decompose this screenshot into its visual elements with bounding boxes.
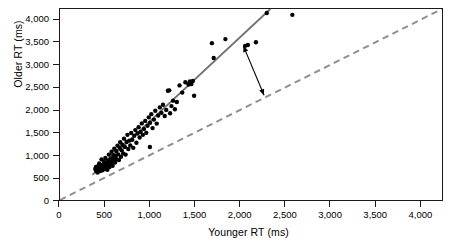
plot-area: [59, 8, 443, 201]
data-point: [167, 88, 171, 92]
data-point: [223, 37, 227, 41]
data-point: [123, 152, 127, 156]
x-axis-tick-label: 1,500: [183, 210, 207, 220]
data-point: [155, 121, 159, 125]
annotations: [243, 46, 264, 95]
y-axis-tick: [53, 19, 59, 20]
data-point: [210, 41, 214, 45]
y-axis-tick-label: 1,500: [0, 128, 49, 138]
data-point: [130, 138, 134, 142]
data-point: [173, 107, 177, 111]
y-axis-tick-label: 3,000: [0, 60, 49, 70]
x-axis-tick: [149, 201, 150, 207]
y-axis-title: Older RT (ms): [12, 0, 24, 124]
x-axis-tick-label: 3,500: [363, 210, 387, 220]
y-axis-tick: [53, 64, 59, 65]
y-axis-tick-label: 500: [0, 173, 49, 183]
x-axis-tick: [420, 201, 421, 207]
x-axis-tick: [329, 201, 330, 207]
data-point: [150, 126, 154, 130]
data-point: [177, 83, 181, 87]
trend-lines: [60, 9, 442, 200]
y-axis-tick: [53, 155, 59, 156]
data-point: [159, 111, 163, 115]
scatter-plot-figure: 05001,0001,5002,0002,5003,0003,5004,000 …: [0, 0, 453, 245]
data-points: [93, 11, 294, 175]
x-axis-title: Younger RT (ms): [0, 226, 453, 238]
x-axis-tick: [239, 201, 240, 207]
data-point: [144, 131, 148, 135]
data-point: [136, 125, 140, 129]
data-point: [191, 79, 195, 83]
x-axis-tick: [194, 201, 195, 207]
data-point: [192, 94, 196, 98]
data-point: [171, 99, 175, 103]
data-point: [175, 100, 179, 104]
x-axis-tick-label: 2,500: [273, 210, 297, 220]
data-point: [246, 43, 250, 47]
data-point: [125, 133, 129, 137]
identity-line: [60, 9, 442, 200]
y-axis-tick: [53, 132, 59, 133]
data-point: [148, 121, 152, 125]
data-point: [131, 146, 135, 150]
y-axis-tick-label: 1,000: [0, 151, 49, 161]
data-point: [152, 117, 156, 121]
data-point: [142, 127, 146, 131]
data-point: [164, 108, 168, 112]
data-point: [134, 141, 138, 145]
data-point: [143, 119, 147, 123]
data-point: [290, 13, 294, 17]
y-axis-tick: [53, 178, 59, 179]
plot-data-layer: [60, 9, 442, 200]
x-axis-title-text: Younger RT (ms): [164, 226, 289, 238]
x-axis-tick: [284, 201, 285, 207]
data-point: [254, 40, 258, 44]
data-point: [168, 111, 172, 115]
y-axis-tick-label: 0: [0, 196, 49, 206]
y-axis-tick-label: 2,500: [0, 82, 49, 92]
data-point: [148, 145, 152, 149]
y-axis-tick: [53, 41, 59, 42]
y-axis-tick: [53, 110, 59, 111]
x-axis-tick-label: 3,000: [318, 210, 342, 220]
gap-arrow: [243, 46, 264, 95]
x-axis-tick: [104, 201, 105, 207]
x-axis-tick: [58, 201, 59, 207]
data-point: [169, 104, 173, 108]
data-point: [161, 103, 165, 107]
data-point: [212, 56, 216, 60]
data-point: [149, 112, 153, 116]
y-axis-tick-label: 2,000: [0, 105, 49, 115]
y-axis-tick: [53, 87, 59, 88]
x-axis-tick-label: 0: [56, 210, 61, 220]
data-point: [163, 114, 167, 118]
y-axis-tick-label: 4,000: [0, 14, 49, 24]
data-point: [180, 90, 184, 94]
x-axis-tick-label: 500: [96, 210, 112, 220]
data-point: [153, 109, 157, 113]
x-axis-tick-label: 2,000: [228, 210, 252, 220]
data-point: [265, 11, 269, 15]
x-axis-tick-label: 1,000: [137, 210, 161, 220]
x-axis-tick-label: 4,000: [409, 210, 433, 220]
x-axis-tick: [375, 201, 376, 207]
y-axis-tick-label: 3,500: [0, 37, 49, 47]
